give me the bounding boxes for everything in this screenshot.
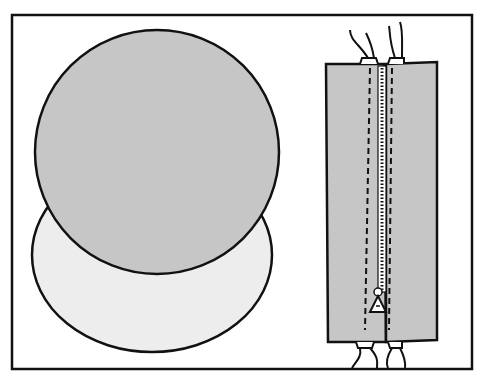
fabric-circle-dark: [35, 30, 279, 274]
thread-bottom: [352, 348, 405, 368]
thread-top: [350, 22, 402, 58]
illustration: [0, 0, 478, 382]
zipper-panel: [326, 22, 437, 368]
